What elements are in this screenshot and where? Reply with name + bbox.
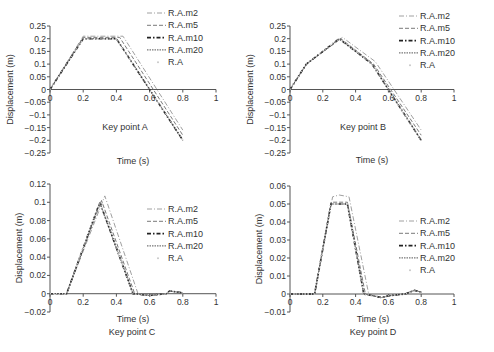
legend-label: R.A [420,265,435,275]
y-tick-label: 0.1 [274,59,286,69]
panel-c: 0.120.10.080.060.040.020−0.0200.20.40.60… [14,179,219,337]
x-tick-label: 1 [214,93,219,103]
chart-title: Key point C [109,327,156,337]
x-tick-label: 0.6 [144,297,156,307]
y-axis-label: Displacement (m) [14,213,24,284]
y-tick-label: 0 [281,289,286,299]
x-tick-label: 0.4 [110,93,122,103]
y-tick-label: −0.05 [24,97,46,107]
y-axis-label: Displacement (m) [5,54,15,125]
y-tick-label: −0.02 [24,307,46,317]
y-tick-label: 0.12 [29,179,46,189]
y-tick-label: 0.05 [269,72,286,82]
y-tick-label: 0 [281,85,286,95]
legend-label: R.A.m2 [420,11,450,21]
y-tick-label: −0.2 [29,135,46,145]
x-tick-label: 1 [214,297,219,307]
x-tick-label: 0.2 [77,297,89,307]
series-line [50,37,183,135]
y-tick-label: 0 [41,289,46,299]
x-tick-label: 1 [452,297,457,307]
legend-label: R.A.m5 [420,228,450,238]
legend-label: R.A.m2 [420,216,450,226]
y-tick-label: −0.1 [269,110,286,120]
y-tick-label: 0 [41,85,46,95]
y-tick-label: 0.25 [269,21,286,31]
chart-title: Key point B [340,122,386,132]
legend-label: R.A.m10 [420,241,455,251]
x-tick-label: 0.4 [110,297,122,307]
legend-label: R.A [168,57,183,67]
x-tick-label: 0.6 [382,297,394,307]
x-tick-label: 0 [288,93,293,103]
y-tick-label: 0.04 [269,217,286,227]
x-tick-label: 0.8 [415,297,427,307]
legend-label: R.A.m20 [420,253,455,263]
x-tick-label: 0.8 [415,93,427,103]
y-axis-label: Displacement (m) [245,54,255,125]
series-line [290,204,421,298]
legend-label: R.A.m5 [420,23,450,33]
y-tick-label: −0.05 [264,97,286,107]
y-tick-label: 0.03 [269,235,286,245]
legend-label: R.A.m10 [168,33,203,43]
y-tick-label: 0.01 [269,271,286,281]
legend-label: R.A.m2 [168,204,198,214]
y-tick-label: 0.06 [29,234,46,244]
x-tick-label: 0 [288,297,293,307]
y-tick-label: 0.05 [29,72,46,82]
y-tick-label: 0.02 [29,270,46,280]
legend-label: R.A [420,60,435,70]
y-tick-label: 0.1 [34,197,46,207]
legend: R.A.m2R.A.m5R.A.m10R.A.m20R.A [147,204,203,263]
legend: R.A.m2R.A.m5R.A.m10R.A.m20R.A [399,216,455,275]
y-tick-label: 0.04 [29,252,46,262]
y-tick-label: −0.2 [269,135,286,145]
legend-label: R.A.m2 [168,8,198,18]
x-axis-label: Time (s) [117,156,150,166]
legend: R.A.m2R.A.m5R.A.m10R.A.m20R.A [147,8,203,67]
series-line [290,204,421,298]
x-tick-label: 0.2 [317,297,329,307]
series-line [50,202,183,295]
legend-label: R.A.m20 [420,48,455,58]
y-tick-label: 0.15 [29,46,46,56]
y-tick-label: 0.2 [34,34,46,44]
x-tick-label: 0.4 [350,93,362,103]
y-tick-label: 0.2 [274,34,286,44]
x-axis-label: Time (s) [117,314,150,324]
x-tick-label: 0.8 [177,297,189,307]
x-tick-label: 0 [48,93,53,103]
x-axis-label: Time (s) [357,314,390,324]
y-tick-label: −0.25 [24,148,46,158]
y-tick-label: −0.15 [24,123,46,133]
y-tick-label: 0.05 [269,199,286,209]
y-tick-label: −0.01 [264,307,286,317]
y-tick-label: 0.1 [34,59,46,69]
legend: R.A.m2R.A.m5R.A.m10R.A.m20R.A [399,11,455,70]
panel-b: 0.250.20.150.10.050−0.05−0.1−0.15−0.2−0.… [245,11,457,165]
y-tick-label: 0.15 [269,46,286,56]
chart-title: Key point A [102,122,148,132]
x-tick-label: 0.8 [177,93,189,103]
legend-label: R.A.m5 [168,20,198,30]
y-tick-label: 0.08 [29,216,46,226]
x-tick-label: 0.2 [317,93,329,103]
x-tick-label: 0 [48,297,53,307]
y-tick-label: 0.25 [29,21,46,31]
x-tick-label: 0.2 [77,93,89,103]
series-line [290,202,421,297]
legend-label: R.A.m20 [168,45,203,55]
legend-label: R.A.m10 [168,229,203,239]
legend-label: R.A.m20 [168,241,203,251]
x-tick-label: 0.4 [350,297,362,307]
y-axis-label: Displacement (m) [254,214,264,285]
panel-a: 0.250.20.150.10.050−0.05−0.1−0.15−0.2−0.… [5,8,219,166]
legend-label: R.A.m10 [420,36,455,46]
x-tick-label: 1 [452,93,457,103]
legend-label: R.A.m5 [168,216,198,226]
panel-d: 0.060.050.040.030.020.010−0.0100.20.40.6… [254,181,457,337]
y-tick-label: 0.06 [269,181,286,191]
chart-title: Key point D [350,327,397,337]
series-line [290,204,421,298]
